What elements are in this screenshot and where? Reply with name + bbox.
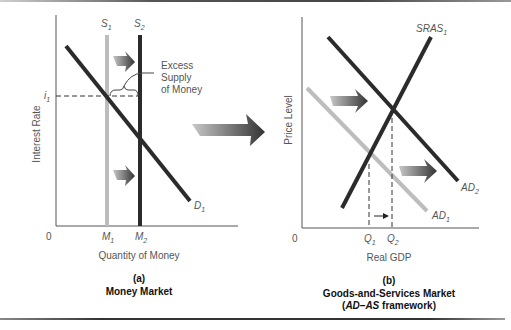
a-origin-label: 0: [46, 231, 52, 242]
ad-shift-arrow-icon: [399, 159, 437, 183]
label-s2: S2: [134, 18, 145, 31]
label-ad1: AD1: [431, 210, 450, 223]
label-m1: M1: [102, 231, 114, 244]
panel-a-money-market: [56, 15, 238, 226]
annotation-line-3: of Money: [161, 84, 202, 95]
output-increase-arrowhead-icon: [383, 213, 389, 219]
panel-b-letter: (b): [383, 275, 396, 286]
b-y-axis-label: Price Level: [283, 95, 294, 144]
panel-a-title: Money Market: [106, 286, 173, 297]
label-i1: i1: [44, 90, 50, 103]
b-x-axis-label: Real GDP: [366, 252, 411, 263]
panel-b-subtitle: (AD–AS framework): [342, 300, 436, 311]
right-shift-arrow-icon: [113, 51, 135, 72]
ad-shift-arrow-icon: [330, 89, 368, 113]
panel-b-title: Goods-and-Services Market: [323, 288, 456, 299]
panel-b-goods-services-market: [302, 17, 479, 228]
diagram-canvas: S1 S2 D1 i1 Excess Supply of Money 0 M1 …: [0, 0, 511, 330]
label-ad2: AD2: [460, 182, 479, 195]
label-d1: D1: [194, 200, 205, 213]
annotation-line-1: Excess: [161, 60, 193, 71]
right-shift-arrow-icon: [113, 165, 135, 186]
label-sras1: SRAS1: [416, 23, 447, 36]
label-q2: Q2: [387, 233, 399, 246]
label-q1: Q1: [364, 233, 376, 246]
ad1-curve: [307, 88, 427, 211]
panel-a-letter: (a): [133, 273, 145, 284]
a-y-axis-label: Interest Rate: [31, 105, 42, 163]
label-m2: M2: [135, 231, 147, 244]
excess-supply-brace: [110, 86, 138, 96]
sras1-curve: [342, 37, 431, 208]
annotation-line-2: Supply: [161, 72, 192, 83]
label-s1: S1: [101, 18, 112, 31]
transmission-arrow-icon: [192, 114, 265, 146]
bottom-rule: [0, 318, 505, 320]
a-x-axis-label: Quantity of Money: [98, 250, 179, 261]
b-origin-label: 0: [292, 233, 298, 244]
